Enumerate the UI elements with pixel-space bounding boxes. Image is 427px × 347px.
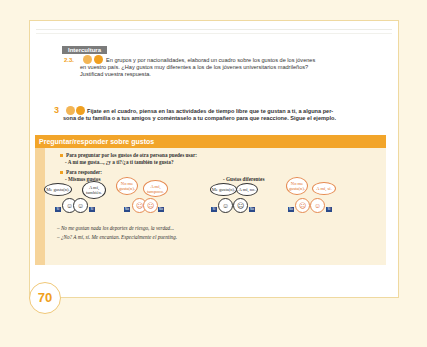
smiley-face-icon: ☺ [310,198,325,213]
example-line: – ¿No? A mí, sí. Me encantan. Especialme… [57,234,177,240]
speech-bubble: A mí, no. [236,183,258,196]
yes-badge: Sí [326,207,332,212]
sad-face-icon: ☹ [233,198,248,213]
speech-bubble: A mí, también. [82,181,106,199]
no-badge: No [288,207,294,212]
exercise-number: 3 [54,105,59,115]
speech-bubble: A mí, sí. [312,182,336,195]
speech-icon [76,106,85,115]
person-icon [66,106,75,115]
smiley-face-icon: ☺ [73,198,88,213]
yes-badge: Sí [89,207,95,212]
box-title: Preguntar/responder sobre gustos [35,135,386,148]
speech-bubble: No me gusta(n). [116,177,138,195]
divider [36,29,392,30]
sad-face-icon: ☹ [143,198,158,213]
box-side-strip [35,148,45,265]
globe-icon [94,55,103,64]
speech-bubble: No me gusta(n). [286,177,308,195]
speech-bubble: A mí, tampoco. [143,180,168,197]
yes-badge: Sí [211,207,217,212]
no-badge: No [124,207,130,212]
smiley-face-icon: ☺ [218,198,233,213]
exercise-text: Justificad vuestra respuesta. [80,71,151,78]
ask-example: - A mí me gusta..., ¿y a ti?/¿a ti tambi… [65,159,174,165]
sad-face-icon: ☹ [295,198,310,213]
no-badge: No [158,207,164,212]
exercise-text: Fíjate en el cuadro, piensa en las activ… [87,108,333,115]
yes-badge: Sí [55,207,61,212]
answer-intro: Para responder: [60,169,102,175]
group-icon [83,55,92,64]
speech-bubble: Me gusta(n). [210,183,237,196]
example-line: – No me gustan nada los deportes de ries… [57,225,174,231]
different-tastes-label: - Gustos diferentes [223,176,264,182]
grammar-box: Preguntar/responder sobre gustos Para pr… [35,135,386,265]
exercise-number: 2.3. [64,57,74,63]
page-number: 70 [29,282,61,314]
speech-bubble: Me gusta(n). [44,183,72,196]
exercise-text: en vuestro país. ¿Hay gustos muy diferen… [80,64,308,71]
no-badge: No [249,207,255,212]
divider [36,33,392,34]
exercise-text: sona de tu familia o a tus amigos y comé… [63,115,336,122]
exercise-text: En grupos y por nacionalidades, elaborad… [106,57,315,64]
ask-intro: Para preguntar por los gustos de otra pe… [60,152,197,158]
section-tag: Intercultura [62,46,107,54]
